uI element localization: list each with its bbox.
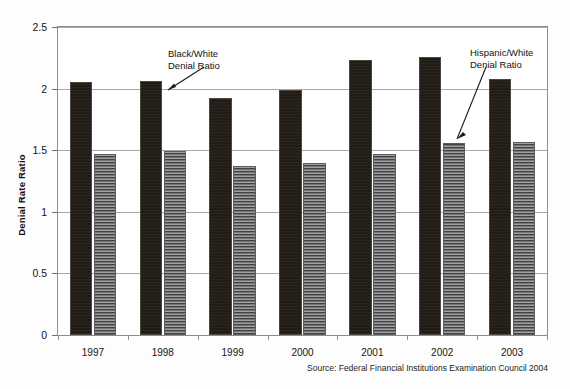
bar-group-2003 — [489, 27, 536, 335]
bar-group-2000 — [279, 27, 326, 335]
bar-black-white-2003 — [489, 79, 512, 335]
x-tick-label-1999: 1999 — [222, 347, 244, 358]
y-tick-mark — [52, 335, 57, 336]
x-tick-mark — [58, 335, 59, 340]
y-tick-mark — [52, 273, 57, 274]
bar-black-white-2001 — [349, 60, 372, 335]
annotation-hispanic-white-line1: Hispanic/White — [470, 47, 533, 59]
x-tick-mark — [407, 335, 408, 340]
x-tick-mark — [337, 335, 338, 340]
bar-black-white-1998 — [140, 81, 163, 335]
y-tick-label: 0.5 — [32, 267, 47, 279]
bar-chart-figure: Denial Rate Ratio 00.511.522.51997199819… — [0, 0, 570, 389]
bar-hispanic-white-2000 — [303, 163, 326, 335]
x-tick-mark — [268, 335, 269, 340]
bar-hispanic-white-1997 — [94, 154, 117, 335]
x-tick-label-2000: 2000 — [291, 347, 313, 358]
x-tick-mark — [198, 335, 199, 340]
annotation-black-white-arrow-icon — [160, 66, 205, 94]
y-axis-title: Denial Rate Ratio — [16, 154, 27, 236]
bar-hispanic-white-1998 — [164, 151, 187, 335]
annotation-black-white-line1: Black/White — [168, 48, 220, 60]
bar-black-white-2002 — [419, 57, 442, 335]
x-tick-mark — [477, 335, 478, 340]
y-tick-mark — [52, 150, 57, 151]
y-tick-label: 2.5 — [32, 21, 47, 33]
bar-black-white-1999 — [209, 98, 232, 335]
source-note: Source: Federal Financial Institutions E… — [307, 363, 548, 373]
y-tick-mark — [52, 212, 57, 213]
y-tick-label: 0 — [41, 329, 47, 341]
y-tick-label: 2 — [41, 83, 47, 95]
x-tick-label-1998: 1998 — [152, 347, 174, 358]
x-tick-label-2003: 2003 — [501, 347, 523, 358]
annotation-hispanic-white-arrow-icon — [452, 66, 488, 146]
x-tick-mark — [547, 335, 548, 340]
y-tick-label: 1 — [41, 206, 47, 218]
bar-hispanic-white-2003 — [513, 142, 536, 335]
bar-hispanic-white-2001 — [373, 154, 396, 335]
x-tick-mark — [128, 335, 129, 340]
x-tick-label-2002: 2002 — [431, 347, 453, 358]
x-tick-label-2001: 2001 — [361, 347, 383, 358]
y-tick-mark — [52, 89, 57, 90]
bar-group-1999 — [209, 27, 256, 335]
y-tick-mark — [52, 27, 57, 28]
y-tick-label: 1.5 — [32, 144, 47, 156]
bar-group-1997 — [70, 27, 117, 335]
bar-black-white-2000 — [279, 90, 302, 335]
bar-hispanic-white-1999 — [233, 166, 256, 335]
x-tick-label-1997: 1997 — [82, 347, 104, 358]
bar-black-white-1997 — [70, 82, 93, 335]
bar-hispanic-white-2002 — [443, 143, 466, 335]
bar-group-2001 — [349, 27, 396, 335]
